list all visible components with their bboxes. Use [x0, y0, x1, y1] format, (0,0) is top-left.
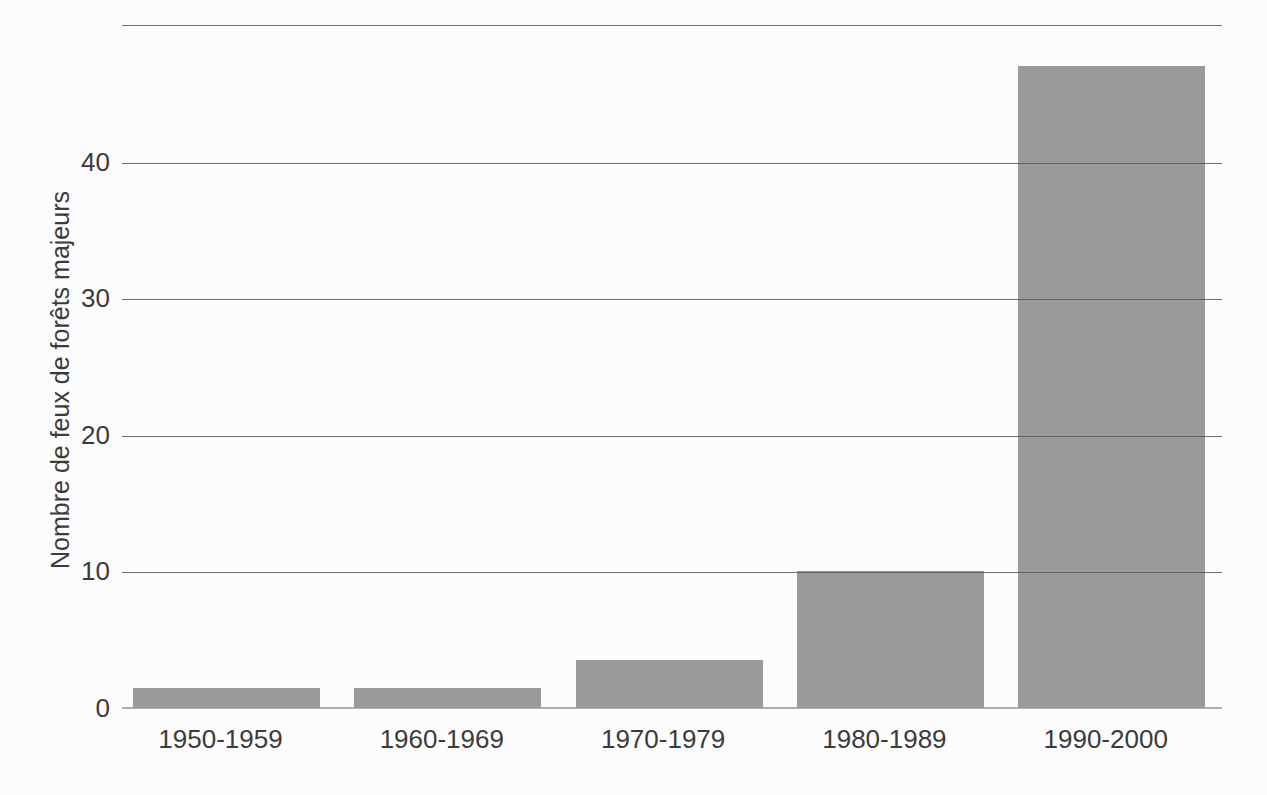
gridline-20 [122, 436, 1222, 437]
x-tick-label-1960-1969: 1960-1969 [322, 724, 562, 754]
y-tick-label-40: 40 [40, 149, 110, 175]
y-tick-label-30: 30 [40, 285, 110, 311]
y-tick-label-0: 0 [40, 695, 110, 721]
y-tick-label-20: 20 [40, 422, 110, 448]
x-tick-label-1980-1989: 1980-1989 [764, 724, 1004, 754]
x-tick-label-1990-2000: 1990-2000 [986, 724, 1226, 754]
gridline-10 [122, 572, 1222, 573]
x-tick-label-1950-1959: 1950-1959 [101, 724, 341, 754]
plot-area [122, 25, 1222, 709]
bar-1970-1979 [576, 660, 763, 708]
gridline-30 [122, 299, 1222, 300]
bar-1960-1969 [354, 688, 541, 709]
bar-1980-1989 [797, 571, 984, 708]
y-axis-title: Nombre de feux de forêts majeurs [46, 191, 75, 569]
y-tick-label-10: 10 [40, 558, 110, 584]
bar-chart-figure: Nombre de feux de forêts majeurs 0102030… [0, 0, 1267, 795]
gridline-40 [122, 163, 1222, 164]
x-tick-label-1970-1979: 1970-1979 [543, 724, 783, 754]
bar-1950-1959 [133, 688, 320, 709]
